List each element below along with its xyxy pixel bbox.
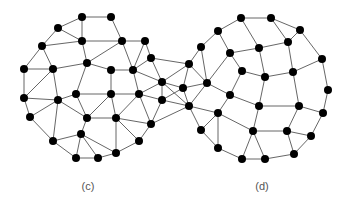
edge-d5-d7 [259,48,265,77]
node-V [83,114,91,122]
edge-W-Q [116,94,139,118]
node-d9 [296,26,304,34]
edge-d9-d11 [300,30,322,59]
edge-Y-Z [53,134,81,141]
edge-d12-d7 [265,72,293,77]
node-L [107,66,115,74]
node-d15 [295,102,303,110]
node-S [54,96,62,104]
edge-d16-d14 [230,95,259,106]
edge-H-BA [151,58,189,64]
node-H [147,54,155,62]
node-X [147,120,155,128]
node-AB [112,149,120,157]
node-d24 [290,150,298,158]
edge-d17-d20 [218,113,253,131]
node-Y [77,130,85,138]
edge-d4-d5 [230,48,259,53]
node-d13 [324,86,332,94]
edge-Y-AD [81,134,98,158]
node-C [54,24,62,32]
edges-layer [24,17,328,159]
node-d8 [267,14,275,22]
edge-d11-d13 [322,59,328,90]
edge-X-BD [151,106,189,124]
edge-R-S [24,98,58,100]
node-U [26,113,34,121]
node-d17 [214,109,222,117]
edge-I-K [53,63,87,69]
edge-G-D [42,41,82,46]
node-d21 [283,127,291,135]
node-d25 [238,155,246,163]
node-I [83,59,91,67]
edge-d6-d16 [230,71,242,95]
edge-d4-BC [207,53,230,83]
edge-O-I [76,63,87,94]
graph-diagram: (c) (d) [0,0,348,208]
edge-E-M [122,41,133,70]
node-A [78,13,86,21]
node-W [112,114,120,122]
nodes-layer [20,13,332,163]
edge-Q-X [139,94,151,124]
node-M [129,66,137,74]
node-d16 [226,91,234,99]
edge-d12-d15 [293,72,299,106]
node-D [78,37,86,45]
node-AA [135,137,143,145]
node-O [72,90,80,98]
node-BA [185,60,193,68]
edge-V-P [87,94,111,118]
edge-I-E [87,41,122,63]
edge-d5-d1 [241,18,259,48]
node-AC [72,154,80,162]
edge-K-S [53,69,58,100]
edge-R-K [24,69,53,98]
node-d3 [197,43,205,51]
node-d4 [226,49,234,57]
node-d23 [214,144,222,152]
edge-BD-d17 [189,106,218,113]
node-E [118,37,126,45]
node-d18 [319,109,327,117]
node-d10 [284,38,292,46]
node-d12 [289,68,297,76]
node-AD [94,154,102,162]
edge-BD-d19 [189,106,201,130]
edge-d20-d26 [253,131,265,159]
node-F [141,37,149,45]
label-c: (c) [82,180,95,192]
node-d14 [255,102,263,110]
edge-S-Z [53,100,58,141]
edge-d10-d12 [288,42,293,72]
node-T [158,96,166,104]
node-Q [135,90,143,98]
node-BB [179,84,187,92]
node-d2 [214,27,222,35]
edge-d5-d10 [259,42,288,48]
node-B [107,13,115,21]
label-d: (d) [255,180,268,192]
edge-d15-d21 [287,106,299,131]
node-BC [203,79,211,87]
edge-d11-d12 [293,59,322,72]
node-d22 [307,132,315,140]
node-G [38,42,46,50]
edge-Y-AB [81,134,116,153]
node-P [107,90,115,98]
node-N [158,78,166,86]
node-d19 [197,126,205,134]
edge-Z-AC [53,141,76,158]
edge-d24-d26 [265,154,294,159]
node-J [20,65,28,73]
node-d1 [237,14,245,22]
edge-U-Z [30,117,53,141]
node-d7 [261,73,269,81]
node-d26 [261,155,269,163]
node-Z [49,137,57,145]
node-BD [185,102,193,110]
edge-C-D [58,28,82,41]
node-d5 [255,44,263,52]
edge-d20-d25 [242,131,253,159]
